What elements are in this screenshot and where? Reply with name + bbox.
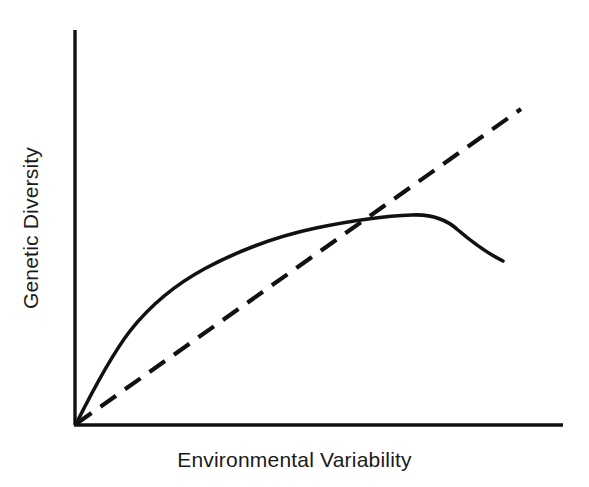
y-axis-label: Genetic Diversity xyxy=(19,147,43,309)
series-observed-solid-curve xyxy=(76,215,503,424)
x-axis-label: Environmental Variability xyxy=(0,448,589,472)
chart-plot-area xyxy=(0,0,589,487)
y-axis-label-container: Genetic Diversity xyxy=(0,30,62,426)
series-expected-linear-dashed-line xyxy=(76,109,521,424)
chart-figure: Genetic Diversity Environmental Variabil… xyxy=(0,0,589,487)
